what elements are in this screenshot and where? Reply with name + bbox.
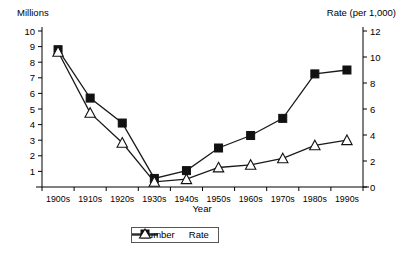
svg-text:9: 9 [30,41,35,52]
svg-text:6: 6 [30,88,35,99]
svg-text:5: 5 [30,104,35,115]
plot-area: 12345678910 024681012 1900s1910s1920s193… [0,0,404,253]
x-axis: 1900s1910s1920s1930s1940s1950s1960s1970s… [36,187,369,204]
line-chart: Millions Rate (per 1,000) 12345678910 02… [0,0,404,253]
svg-text:10: 10 [24,26,35,37]
svg-text:8: 8 [370,78,375,89]
chart-legend: Number Rate [131,227,219,243]
svg-text:12: 12 [370,26,381,37]
open-triangle-icon [132,228,158,240]
svg-text:7: 7 [30,72,35,83]
svg-text:6: 6 [370,104,375,115]
right-axis: 024681012 [363,26,381,193]
svg-text:0: 0 [370,182,375,193]
left-axis: 12345678910 [24,26,42,188]
x-axis-title: Year [0,203,404,214]
svg-text:4: 4 [370,130,375,141]
svg-text:1: 1 [30,166,35,177]
svg-text:2: 2 [370,156,375,167]
svg-text:4: 4 [30,119,35,130]
legend-item-rate: Rate [189,230,209,240]
svg-text:3: 3 [30,135,35,146]
svg-text:8: 8 [30,57,35,68]
series-layer [53,46,352,187]
svg-text:10: 10 [370,52,381,63]
svg-text:2: 2 [30,150,35,161]
legend-label-rate: Rate [189,230,209,240]
